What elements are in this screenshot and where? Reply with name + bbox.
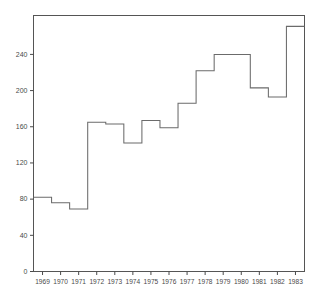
x-tick-label: 1977 (180, 278, 195, 285)
y-tick-label: 200 (16, 87, 28, 94)
y-tick-label: 0 (24, 268, 28, 275)
x-tick-label: 1979 (216, 278, 231, 285)
y-tick-label: 160 (16, 123, 28, 130)
x-tick-label: 1969 (35, 278, 50, 285)
y-tick-label: 40 (20, 232, 28, 239)
data-series-group (34, 26, 305, 209)
y-tick-label: 240 (16, 51, 28, 58)
y-tick-label: 120 (16, 159, 28, 166)
x-tick-label: 1983 (288, 278, 303, 285)
x-tick-label: 1982 (270, 278, 285, 285)
x-tick-label: 1975 (144, 278, 159, 285)
x-tick-label: 1971 (71, 278, 86, 285)
x-tick-label: 1972 (89, 278, 104, 285)
x-tick-label: 1973 (107, 278, 122, 285)
x-tick-label: 1981 (252, 278, 267, 285)
y-tick-label: 80 (20, 195, 28, 202)
x-axis-ticks: 1969197019711972197319741975197619771978… (35, 272, 303, 286)
step-chart: 04080120160200240 1969197019711972197319… (0, 0, 319, 302)
x-tick-label: 1978 (198, 278, 213, 285)
chart-canvas: 04080120160200240 1969197019711972197319… (0, 0, 319, 302)
x-tick-label: 1980 (234, 278, 249, 285)
y-axis-ticks: 04080120160200240 (16, 51, 34, 275)
plot-frame (34, 16, 305, 272)
x-tick-label: 1976 (162, 278, 177, 285)
x-tick-label: 1974 (126, 278, 141, 285)
plot-border (34, 16, 305, 272)
step-line-series (34, 26, 305, 209)
x-tick-label: 1970 (53, 278, 68, 285)
